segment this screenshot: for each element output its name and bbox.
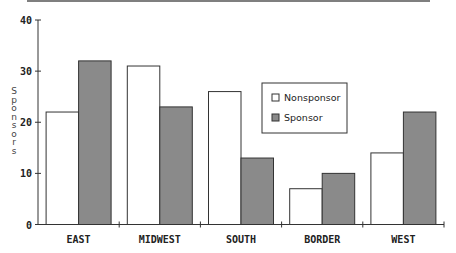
y-axis-label-char: s [12,146,17,156]
x-axis: EASTMIDWESTSOUTHBORDERWEST [38,222,444,246]
bar-sponsor-west [403,112,436,224]
legend-label-sponsor: Sponsor [284,112,323,123]
x-tick-label: EAST [67,234,91,245]
y-axis: 010203040 [20,15,41,231]
bar-sponsor-east [79,61,112,225]
x-tick-label: WEST [391,234,415,245]
y-tick-label: 20 [20,117,32,128]
x-tick-label: MIDWEST [139,234,181,245]
x-tick-label: SOUTH [226,234,256,245]
legend-box [262,83,347,133]
legend: Nonsponsor Sponsor [262,83,347,133]
bar-nonsponsor-east [46,112,79,224]
legend-swatch-sponsor [272,114,279,121]
bar-sponsor-south [241,158,274,224]
y-tick-label: 30 [20,66,32,77]
y-axis-label: Sponsors [11,86,17,156]
bar-nonsponsor-south [209,92,242,225]
bar-nonsponsor-midwest [127,66,160,224]
bar-sponsor-border [322,173,355,224]
y-tick-label: 40 [20,15,32,26]
legend-swatch-nonsponsor [272,94,279,101]
x-tick-label: BORDER [304,234,341,245]
y-tick-label: 10 [20,168,32,179]
bar-sponsor-midwest [160,107,193,225]
y-tick-label: 0 [26,220,32,231]
bar-nonsponsor-west [371,153,404,225]
bars [46,61,436,225]
bar-chart: 010203040 EASTMIDWESTSOUTHBORDERWEST Spo… [0,0,456,253]
bar-nonsponsor-border [290,189,323,225]
legend-label-nonsponsor: Nonsponsor [284,92,341,103]
